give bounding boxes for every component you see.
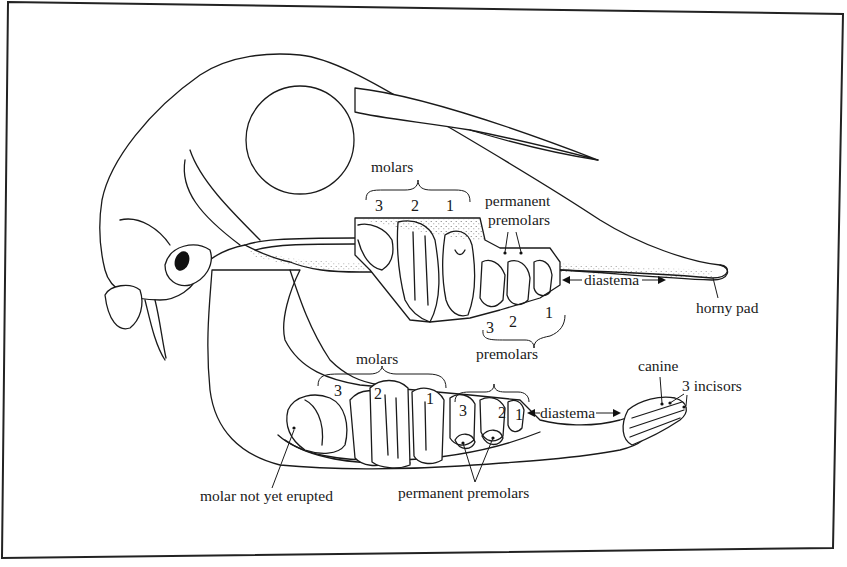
upper-molar-number-3: 3	[375, 197, 383, 214]
canine-annotation: canine	[638, 357, 679, 403]
canine-label: canine	[638, 357, 679, 374]
lower-permanent-premolars-label: permanent premolars	[398, 484, 529, 501]
molar-not-erupted-label: molar not yet erupted	[200, 487, 333, 504]
lower-molar-number-1: 1	[426, 390, 434, 407]
upper-molars-label: molars	[371, 158, 413, 175]
upper-premolar-number-3: 3	[486, 319, 494, 336]
lower-diastema-label: diastema	[540, 404, 595, 421]
upper-diastema-label: diastema	[584, 271, 639, 288]
lower-premolar-number-1: 1	[515, 406, 523, 423]
upper-permanent-label: permanent	[485, 192, 551, 209]
lower-premolar-number-2: 2	[498, 404, 506, 421]
horny-pad-label: horny pad	[696, 299, 759, 316]
orbit	[246, 86, 354, 194]
lower-molars-label: molars	[356, 350, 398, 367]
skull-dentition-diagram: molars 3 2 1 permanent premolars 3 2 1 p…	[0, 0, 847, 567]
upper-premolar-number-2: 2	[509, 313, 517, 330]
upper-molar-number-2: 2	[411, 197, 419, 214]
upper-premolars-label: premolars	[476, 345, 538, 362]
upper-premolar-number-1: 1	[545, 304, 553, 321]
incisors-label: 3 incisors	[682, 377, 742, 394]
horny-pad-annotation: horny pad	[696, 278, 759, 316]
lower-premolar-number-3: 3	[459, 402, 467, 419]
upper-premolars-label-line2: premolars	[488, 211, 550, 228]
lower-diastema-annotation: diastema	[527, 404, 621, 421]
lower-molar-number-2: 2	[374, 385, 382, 402]
upper-molar-number-1: 1	[446, 197, 454, 214]
lower-molar-number-3: 3	[334, 382, 342, 399]
lower-incisors	[623, 397, 686, 445]
